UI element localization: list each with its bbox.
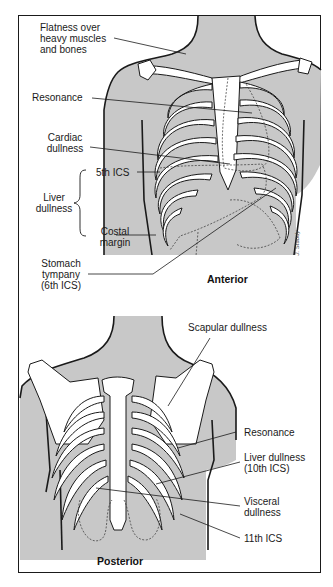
label-cardiac-dullness: Cardiac dullness [40, 132, 90, 154]
label-5th-ics: 5th ICS [96, 167, 129, 178]
label-posterior-resonance: Resonance [244, 427, 295, 438]
label-anterior-resonance: Resonance [32, 92, 83, 103]
label-costal-margin: Costal margin [96, 226, 134, 248]
label-flatness: Flatness over heavy muscles and bones [40, 22, 106, 55]
label-11th-ics: 11th ICS [244, 533, 282, 544]
label-stomach-tympany: Stomach tympany (6th ICS) [36, 258, 86, 291]
panel-title-anterior: Anterior [207, 273, 248, 285]
label-visceral-dullness: Visceral dullness [244, 496, 281, 518]
anterior-torso [104, 16, 321, 256]
panel-title-posterior: Posterior [97, 555, 143, 567]
thorax-illustration [0, 0, 333, 587]
label-scapular-dullness: Scapular dullness [188, 322, 267, 333]
artist-signature: J. Staudy [294, 230, 300, 255]
label-liver-dullness-anterior: Liver dullness [32, 192, 76, 214]
label-liver-dullness-posterior: Liver dullness (10th ICS) [244, 452, 305, 474]
